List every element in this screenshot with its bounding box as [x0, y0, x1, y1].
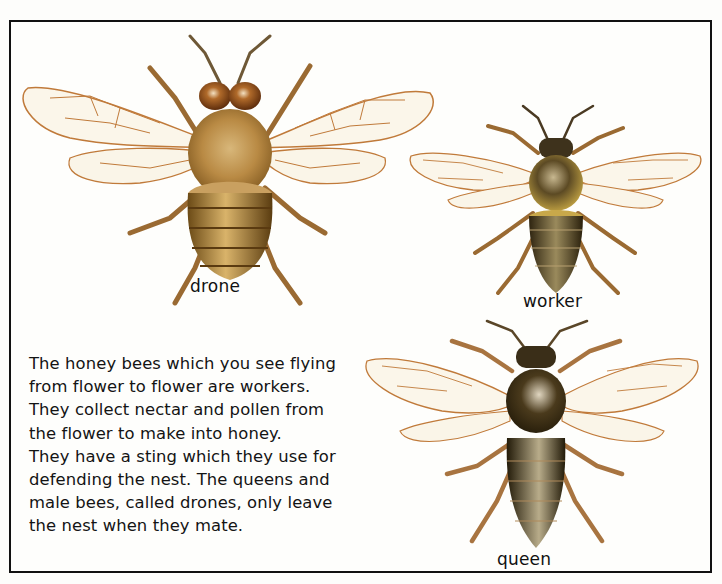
text-line: from flower to flower are workers. — [29, 375, 369, 398]
description-paragraph: The honey bees which you see flying from… — [29, 352, 369, 538]
worker-label: worker — [523, 291, 582, 311]
text-line: The honey bees which you see flying — [29, 352, 369, 375]
text-line: They collect nectar and pollen from — [29, 398, 369, 421]
text-line: the nest when they mate. — [29, 514, 369, 537]
text-line: They have a sting which they use for — [29, 445, 369, 468]
worker-bee-illustration — [403, 98, 708, 298]
text-line: defending the nest. The queens and — [29, 468, 369, 491]
drone-label: drone — [190, 276, 240, 296]
worker-abdomen — [529, 216, 583, 293]
queen-thorax — [506, 369, 566, 433]
drone-left-eye — [199, 82, 231, 110]
queen-head — [516, 346, 556, 368]
worker-thorax — [529, 155, 583, 211]
text-line: the flower to make into honey. — [29, 422, 369, 445]
text-line: male bees, called drones, only leave — [29, 491, 369, 514]
drone-right-eye — [229, 82, 261, 110]
drone-bee-illustration — [10, 28, 440, 308]
drone-right-hindwing — [260, 148, 385, 183]
queen-bee-illustration — [362, 316, 702, 551]
queen-label: queen — [497, 549, 551, 569]
queen-abdomen — [507, 438, 566, 548]
